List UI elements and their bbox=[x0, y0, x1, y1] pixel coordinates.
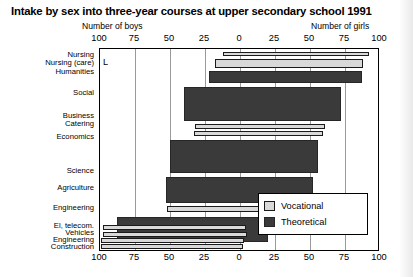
tick-label-top-50: 50 bbox=[304, 33, 314, 43]
category-label-science: Science bbox=[67, 167, 94, 175]
tick-label-bottom--75: 75 bbox=[129, 252, 139, 262]
scan-edge-shading bbox=[399, 0, 413, 277]
bar-construction bbox=[101, 244, 242, 249]
axis-bottom: 1007550250255075100 bbox=[99, 252, 379, 264]
tick-label-top-0: 0 bbox=[236, 33, 241, 43]
tick-label-top--75: 75 bbox=[129, 33, 139, 43]
tick-label-top-75: 75 bbox=[339, 33, 349, 43]
bar-engineering-voc bbox=[101, 238, 244, 243]
tick-label-bottom-0: 0 bbox=[236, 252, 241, 262]
category-label-economics: Economics bbox=[56, 133, 94, 141]
caption-number-of-boys: Number of boys bbox=[82, 21, 143, 31]
category-label-catering: Catering bbox=[65, 120, 94, 128]
legend: VocationalTheoretical bbox=[258, 193, 368, 235]
tick-label-bottom--25: 25 bbox=[199, 252, 209, 262]
category-label-construction: Construction bbox=[51, 243, 94, 251]
tick-label-top-100: 100 bbox=[371, 33, 387, 43]
category-label-nursing-care: Nursing (care) bbox=[45, 59, 94, 67]
tick-label-bottom--50: 50 bbox=[164, 252, 174, 262]
category-label-social: Social bbox=[73, 89, 94, 97]
bar-business bbox=[195, 124, 325, 129]
category-label-engineering: Engineering bbox=[53, 204, 94, 212]
legend-label-theoretical: Theoretical bbox=[281, 217, 326, 227]
tick-label-bottom-25: 25 bbox=[269, 252, 279, 262]
l-marker: L bbox=[103, 57, 108, 67]
legend-item-vocational: Vocational bbox=[264, 198, 362, 214]
tick-label-top--100: 100 bbox=[91, 33, 107, 43]
tick-label-top-25: 25 bbox=[269, 33, 279, 43]
bar-nursing-care bbox=[215, 59, 363, 68]
legend-item-theoretical: Theoretical bbox=[264, 214, 362, 230]
tick-label-bottom--100: 100 bbox=[91, 252, 107, 262]
tick-label-top--25: 25 bbox=[199, 33, 209, 43]
caption-number-of-girls: Number of girls bbox=[311, 21, 369, 31]
bar-social bbox=[184, 87, 341, 121]
tick-label-top--50: 50 bbox=[164, 33, 174, 43]
bar-humanities bbox=[209, 71, 362, 83]
category-label-agriculture: Agriculture bbox=[57, 184, 94, 192]
page-title: Intake by sex into three-year courses at… bbox=[11, 5, 372, 17]
bar-el-telecom bbox=[103, 225, 246, 230]
legend-swatch-theoretical-icon bbox=[264, 217, 275, 227]
axis-top: 1007550250255075100 bbox=[99, 33, 379, 45]
legend-label-vocational: Vocational bbox=[281, 201, 323, 211]
category-label-humanities: Humanities bbox=[56, 68, 94, 76]
category-label-column: NursingNursing (care)HumanitiesSocialBus… bbox=[0, 48, 96, 251]
tick-label-bottom-50: 50 bbox=[304, 252, 314, 262]
bar-economics bbox=[170, 140, 318, 173]
bar-catering bbox=[194, 131, 323, 136]
bar-vehicles bbox=[103, 232, 247, 237]
tick-label-bottom-100: 100 bbox=[371, 252, 387, 262]
chart-screenshot: Intake by sex into three-year courses at… bbox=[0, 0, 413, 277]
tick-label-bottom-75: 75 bbox=[339, 252, 349, 262]
legend-swatch-vocational-icon bbox=[264, 201, 275, 211]
bar-nursing bbox=[223, 52, 369, 56]
